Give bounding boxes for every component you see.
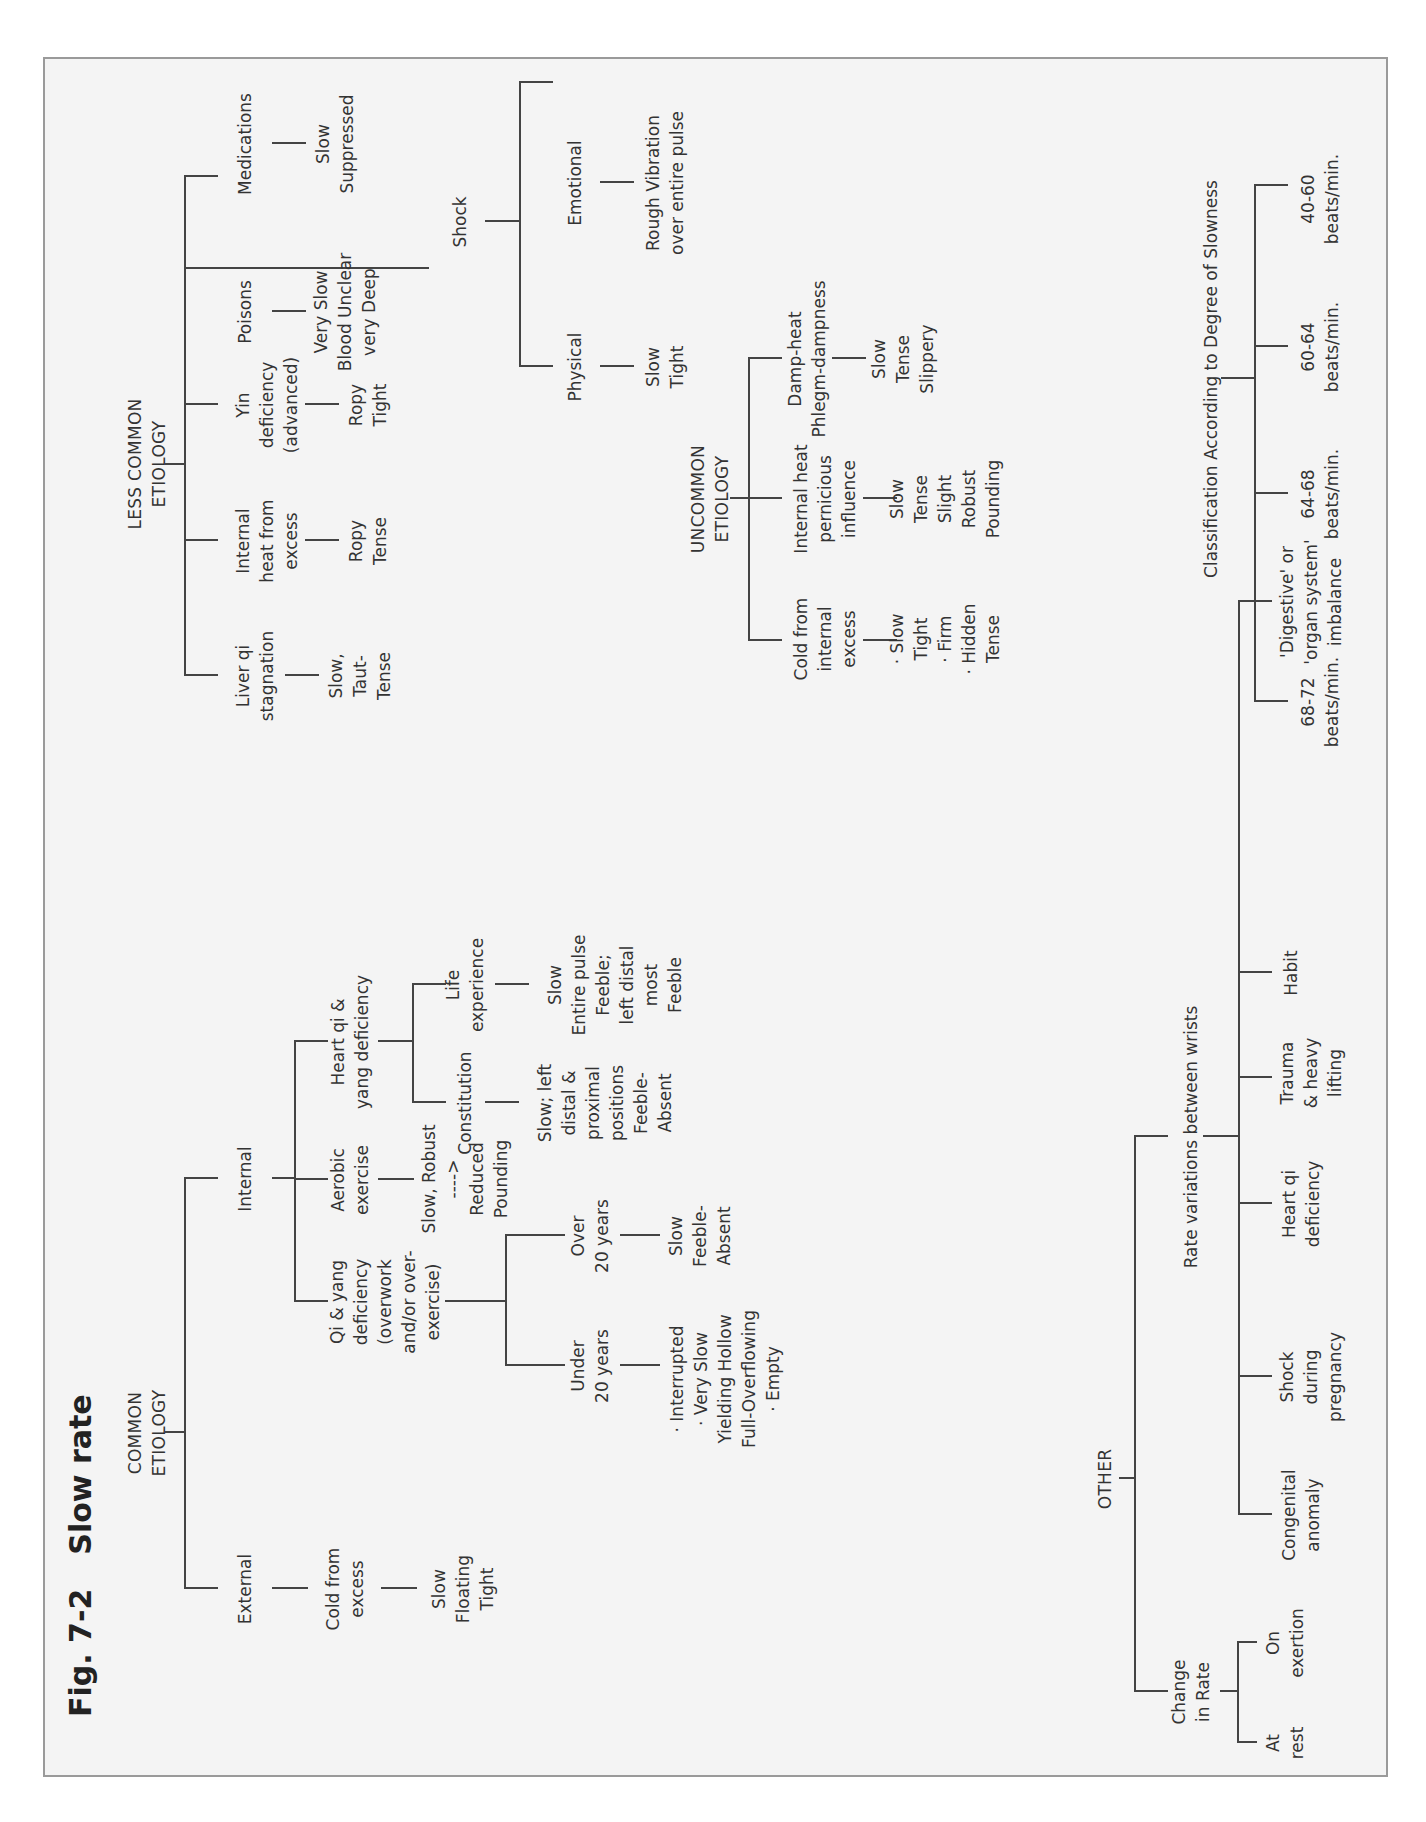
connector — [748, 497, 782, 499]
connector — [272, 310, 306, 312]
under-20-result: · Interrupted · Very Slow Yielding Hollo… — [665, 1310, 785, 1448]
constitution-result: Slow; left distal & proximal positions F… — [533, 1064, 677, 1142]
heart-qi-yang-node: Heart qi & yang deficiency — [326, 975, 374, 1109]
damp-heat-node: Damp-heat Phlegm-dampness — [783, 280, 831, 437]
connector — [184, 674, 218, 676]
connector — [505, 1364, 565, 1366]
connector — [1254, 184, 1288, 186]
connector — [184, 539, 218, 541]
common-etiology-label: COMMON ETIOLOGY — [123, 1390, 171, 1477]
connector — [1134, 1135, 1136, 1692]
connector — [1254, 492, 1288, 494]
aerobic-exercise-node: Aerobic exercise — [326, 1145, 374, 1215]
range-60-64: 60-64 beats/min. — [1296, 302, 1344, 392]
connector — [1238, 971, 1272, 973]
connector — [1254, 345, 1288, 347]
diagram-canvas: Fig. 7-2Slow rate COMMON ETIOLOGY Extern… — [45, 59, 1388, 1777]
connector — [378, 1178, 414, 1180]
range-40-60: 40-60 beats/min. — [1296, 154, 1344, 244]
connector — [1238, 1076, 1272, 1078]
connector — [381, 1587, 417, 1589]
under-20-node: Under 20 years — [566, 1329, 614, 1403]
connector — [519, 81, 553, 83]
connector — [294, 1040, 296, 1302]
connector — [1203, 1135, 1238, 1137]
congenital-anomaly-node: Congenital anomaly — [1277, 1469, 1325, 1561]
external-result: Slow Floating Tight — [427, 1555, 499, 1623]
connector — [748, 357, 782, 359]
shock-node: Shock — [448, 196, 472, 247]
connector — [620, 1234, 660, 1236]
connector — [1254, 700, 1288, 702]
connector — [1238, 600, 1272, 602]
connector — [1119, 1477, 1135, 1479]
cold-internal-excess-result: · Slow Tight · Firm · Hidden Tense — [885, 603, 1005, 674]
figure-title: Fig. 7-2Slow rate — [63, 1394, 98, 1717]
liver-qi-stagnation-node: Liver qi stagnation — [231, 631, 279, 722]
connector — [519, 220, 521, 367]
at-rest-node: At rest — [1261, 1727, 1309, 1760]
poisons-node: Poisons — [233, 280, 257, 344]
connector — [505, 1234, 507, 1366]
connector — [1237, 1641, 1239, 1743]
damp-heat-result: Slow Tense Slippery — [867, 324, 939, 393]
connector — [600, 365, 634, 367]
internal-heat-pernicious-node: Internal heat pernicious influence — [789, 444, 861, 553]
qi-yang-deficiency-node: Qi & yang deficiency (overwork and/or ov… — [325, 1250, 445, 1353]
medications-result: Slow Suppressed — [311, 94, 359, 193]
physical-shock-result: Slow Tight — [641, 346, 689, 389]
connector — [378, 1040, 412, 1042]
connector — [1238, 1513, 1272, 1515]
cold-internal-excess-node: Cold from internal excess — [789, 598, 861, 681]
over-20-result: Slow Feeble- Absent — [664, 1205, 736, 1267]
connector — [730, 497, 748, 499]
connector — [294, 1300, 328, 1302]
connector — [184, 403, 218, 405]
figure-number: Fig. 7-2 — [63, 1589, 98, 1717]
medications-node: Medications — [233, 93, 257, 195]
change-in-rate-node: Change in Rate — [1167, 1659, 1215, 1724]
connector — [519, 82, 521, 222]
connector — [184, 1177, 218, 1179]
connector — [165, 1431, 185, 1433]
shock-pregnancy-node: Shock during pregnancy — [1275, 1332, 1347, 1422]
connector — [1238, 600, 1240, 1515]
connector — [1238, 1375, 1272, 1377]
life-experience-node: Life experience — [441, 938, 489, 1032]
connector — [1221, 377, 1254, 379]
connector — [272, 1587, 308, 1589]
internal-heat-excess-node: Internal heat from excess — [231, 499, 303, 582]
over-20-node: Over 20 years — [566, 1199, 614, 1273]
connector — [832, 357, 866, 359]
connector — [184, 175, 218, 177]
internal-heat-excess-result: Ropy Tense — [344, 517, 392, 565]
heart-qi-deficiency-node: Heart qi deficiency — [1277, 1161, 1325, 1248]
emotional-shock-node: Emotional — [563, 140, 587, 225]
connector — [272, 142, 306, 144]
figure-frame: Fig. 7-2Slow rate COMMON ETIOLOGY Extern… — [43, 57, 1388, 1777]
connector — [748, 358, 750, 641]
connector — [294, 1178, 328, 1180]
connector — [272, 1177, 294, 1179]
connector — [1238, 1202, 1272, 1204]
digestive-imbalance-node: 'Digestive' or 'organ system' imbalance — [1275, 539, 1347, 664]
connector — [519, 365, 553, 367]
range-64-68: 64-68 beats/min. — [1296, 449, 1344, 539]
internal-heat-pernicious-result: Slow Tense Slight Robust Pounding — [885, 460, 1005, 539]
connector — [412, 983, 414, 1103]
connector — [1134, 1690, 1168, 1692]
connector — [600, 181, 634, 183]
connector — [305, 539, 339, 541]
liver-qi-result: Slow, Taut- Tense — [324, 652, 396, 700]
figure-title-text: Slow rate — [63, 1394, 98, 1554]
page-header — [470, 0, 650, 8]
connector — [184, 176, 186, 676]
poisons-result: Very Slow Blood Unclear very Deep — [309, 253, 381, 372]
connector — [495, 983, 529, 985]
connector — [505, 1234, 565, 1236]
on-exertion-node: On exertion — [1261, 1608, 1309, 1678]
connector — [1237, 1741, 1257, 1743]
physical-shock-node: Physical — [563, 332, 587, 401]
connector — [1220, 1690, 1237, 1692]
connector — [412, 1101, 446, 1103]
